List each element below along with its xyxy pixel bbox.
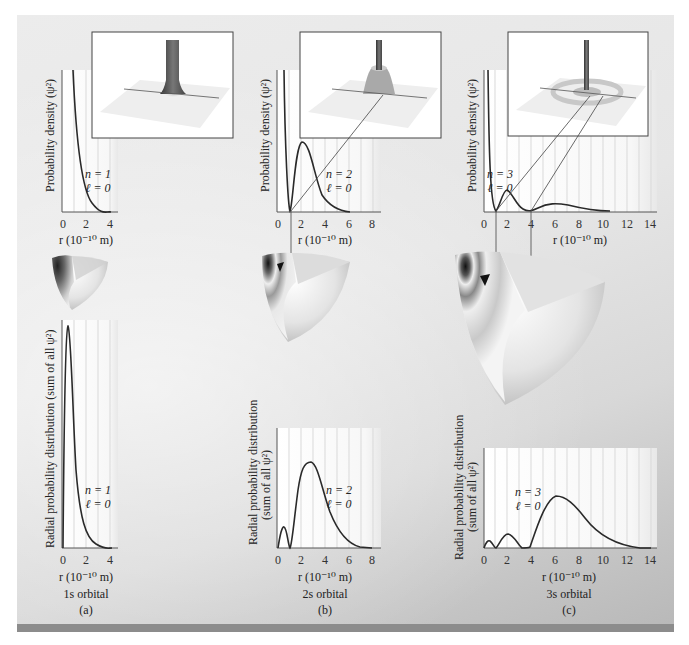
y-axis-label-line2: (sum of all ψ²): [465, 462, 479, 532]
orbital-caption: 3s orbital: [547, 587, 593, 601]
inset-2s-surface: [300, 32, 441, 138]
svg-text:2: 2: [504, 553, 510, 567]
quantum-l: ℓ = 0: [487, 181, 512, 195]
quantum-n: n = 2: [326, 167, 352, 181]
chart-1s-radial: 0 2 4 r (10⁻¹⁰ m) Radial probability dis…: [43, 320, 118, 584]
quantum-n: n = 3: [515, 485, 541, 499]
y-axis-label: Probability density (ψ²): [465, 79, 479, 192]
svg-text:6: 6: [552, 553, 558, 567]
panel-label: (a): [79, 603, 92, 617]
svg-text:4: 4: [107, 553, 113, 567]
svg-text:2: 2: [504, 217, 510, 231]
quantum-n: n = 1: [85, 167, 111, 181]
x-axis-label: r (10⁻¹⁰ m): [59, 570, 113, 584]
x-axis-label: r (10⁻¹⁰ m): [298, 570, 352, 584]
quantum-l: ℓ = 0: [515, 499, 540, 513]
orbital-caption: 2s orbital: [303, 587, 349, 601]
svg-text:0: 0: [60, 553, 66, 567]
orbital-caption: 1s orbital: [64, 587, 110, 601]
svg-text:6: 6: [346, 553, 352, 567]
svg-text:6: 6: [346, 217, 352, 231]
svg-text:8: 8: [576, 217, 582, 231]
sphere-1s: [52, 255, 108, 310]
quantum-n: n = 1: [85, 483, 111, 497]
panel-c: 0 2 4 6 8 10 12 14 r (10⁻¹⁰ m) Probabili…: [452, 32, 657, 617]
svg-text:0: 0: [60, 217, 66, 231]
panel-b: 0 2 4 6 8 r (10⁻¹⁰ m) Probability densit…: [246, 32, 441, 617]
svg-text:0: 0: [481, 553, 487, 567]
panel-label: (b): [318, 603, 332, 617]
panel-label: (c): [562, 603, 575, 617]
svg-text:2: 2: [83, 553, 89, 567]
orbital-figure: 0 2 4 r (10⁻¹⁰ m) Probability density (ψ…: [0, 0, 689, 645]
svg-text:8: 8: [369, 553, 375, 567]
sphere-3s: [455, 251, 605, 405]
svg-text:4: 4: [107, 217, 113, 231]
quantum-l: ℓ = 0: [326, 181, 351, 195]
quantum-l: ℓ = 0: [326, 497, 351, 511]
inset-3s-surface: [508, 32, 648, 136]
quantum-n: n = 2: [326, 483, 352, 497]
svg-text:8: 8: [369, 217, 375, 231]
x-axis-label: r (10⁻¹⁰ m): [553, 233, 607, 247]
svg-text:2: 2: [298, 553, 304, 567]
y-axis-label-line1: Radial probability distribution: [246, 400, 260, 545]
svg-text:4: 4: [322, 553, 328, 567]
x-axis-label: r (10⁻¹⁰ m): [542, 570, 596, 584]
svg-text:0: 0: [275, 553, 281, 567]
svg-text:0: 0: [481, 217, 487, 231]
x-axis-label: r (10⁻¹⁰ m): [59, 233, 113, 247]
y-axis-label: Probability density (ψ²): [43, 79, 57, 192]
svg-text:14: 14: [644, 217, 656, 231]
svg-text:10: 10: [597, 553, 609, 567]
svg-text:2: 2: [298, 217, 304, 231]
svg-text:10: 10: [597, 217, 609, 231]
quantum-n: n = 3: [487, 167, 513, 181]
sphere-2s: [262, 253, 350, 342]
chart-3s-radial: 0 2 4 6 8 10 12 14 r (10⁻¹⁰ m) Radial pr…: [452, 415, 657, 584]
quantum-l: ℓ = 0: [85, 181, 110, 195]
y-axis-label-line1: Radial probability distribution: [452, 415, 466, 560]
chart-2s-radial: 0 2 4 6 8 r (10⁻¹⁰ m) Radial probability…: [246, 400, 381, 584]
svg-text:4: 4: [322, 217, 328, 231]
panel-a: 0 2 4 r (10⁻¹⁰ m) Probability density (ψ…: [43, 32, 233, 617]
svg-text:12: 12: [621, 553, 633, 567]
y-axis-label: Radial probability distribution (sum of …: [43, 330, 57, 548]
svg-text:12: 12: [621, 217, 633, 231]
svg-text:14: 14: [644, 553, 656, 567]
y-axis-label: Probability density (ψ²): [258, 79, 272, 192]
svg-text:2: 2: [83, 217, 89, 231]
svg-text:8: 8: [576, 553, 582, 567]
svg-text:0: 0: [275, 217, 281, 231]
quantum-l: ℓ = 0: [85, 497, 110, 511]
x-axis-label: r (10⁻¹⁰ m): [298, 233, 352, 247]
svg-text:6: 6: [552, 217, 558, 231]
y-axis-label-line2: (sum of all ψ²): [259, 450, 273, 520]
svg-text:4: 4: [528, 553, 534, 567]
inset-1s-surface: [92, 32, 233, 138]
